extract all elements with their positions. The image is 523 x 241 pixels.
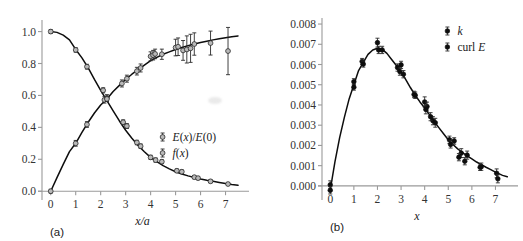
data-marker [196,176,201,181]
x-axis-title-b: x [413,209,420,223]
data-point [85,122,90,128]
data-point [48,29,53,34]
y-tick-label: 0.2 [22,153,37,165]
data-point [208,31,213,55]
data-marker [120,81,125,86]
data-marker [401,72,406,77]
data-point [226,27,231,74]
data-marker [159,52,164,57]
data-point [148,155,153,160]
data-marker [153,158,158,163]
data-marker [73,48,78,53]
data-marker [380,48,385,53]
y-tick-label: 0.6 [22,89,37,101]
data-point [208,179,213,184]
x-tick-label: 2 [375,193,381,205]
x-tick-label: 7 [493,193,499,205]
y-tick-label: 0.002 [290,139,316,151]
x-tick-label: 1 [73,198,79,210]
data-marker [208,179,213,184]
data-point [380,46,385,53]
data-marker [328,188,333,193]
data-marker [428,114,433,119]
data-point [101,88,106,93]
y-tick-label: 0.004 [290,99,316,111]
data-marker [433,120,438,125]
data-marker [413,93,418,98]
legend-marker [445,45,450,50]
y-tick-label: 1.0 [22,26,37,38]
data-marker [179,169,184,174]
y-axis-ticks-a: 0.00.20.40.60.81.0 [22,26,42,198]
x-tick-label: 4 [422,193,428,205]
data-point [226,182,231,187]
data-marker [48,189,53,194]
data-point [105,96,110,101]
data-marker [192,42,197,47]
data-marker [496,177,501,182]
x-tick-label: 6 [198,198,204,210]
data-point [159,159,164,164]
figure-container: 0.00.20.40.60.81.0 01234567 x/a (a) E(x)… [0,0,523,241]
chart-panel-b: 0.0000.0010.0020.0030.0040.0050.0060.007… [261,0,522,241]
data-marker [159,159,164,164]
data-marker [124,76,129,81]
data-point [174,168,179,173]
data-points-b [328,38,500,194]
data-marker [352,85,357,90]
data-point [188,34,193,62]
x-tick-label: 3 [398,193,404,205]
y-tick-label: 0.003 [290,119,316,131]
y-tick-label: 0.007 [290,38,316,50]
data-point [138,144,143,149]
data-marker [226,182,231,187]
data-point [124,124,129,129]
data-marker [124,124,129,129]
legend-label: f(x) [173,147,189,160]
data-marker [174,168,179,173]
data-marker [361,62,366,67]
x-axis-ticks-b: 01234567 [327,186,498,205]
data-point [179,169,184,174]
data-marker [452,139,457,144]
x-tick-label: 0 [327,193,333,205]
data-marker [375,40,380,45]
data-marker [48,29,53,34]
y-tick-label: 0.008 [290,18,316,30]
scan-artifact-smudge [208,97,222,104]
data-marker [138,144,143,149]
data-marker [101,88,106,93]
data-marker [134,140,139,145]
panel-a-axes [38,20,249,200]
data-marker [208,41,213,46]
data-point [462,158,467,165]
chart-panel-a: 0.00.20.40.60.81.0 01234567 x/a (a) E(x)… [0,0,261,241]
y-tick-label: 0.000 [290,180,316,192]
data-marker [352,79,357,84]
y-tick-label: 0.005 [290,79,316,91]
data-point [85,64,90,69]
data-marker [226,49,231,54]
data-point [153,158,158,163]
panel-label-a: (a) [50,226,64,238]
data-marker [153,52,158,57]
data-points-a [48,27,230,193]
data-marker [462,159,467,164]
data-marker [424,107,429,112]
data-point [121,120,126,125]
legend-label: k [457,25,463,37]
panel-label-b: (b) [330,221,344,233]
data-marker [465,153,470,158]
data-point [48,189,53,194]
x-tick-label: 7 [223,198,229,210]
legend-label: curl E [457,41,485,53]
data-marker [138,66,143,71]
model-curve [51,36,238,191]
data-point [159,49,164,59]
legend-a: E(x)/E(0)f(x) [160,131,216,160]
x-tick-label: 6 [469,193,475,205]
data-marker [148,155,153,160]
data-marker [399,63,404,68]
x-tick-label: 0 [48,198,54,210]
y-tick-label: 0.4 [22,121,37,133]
